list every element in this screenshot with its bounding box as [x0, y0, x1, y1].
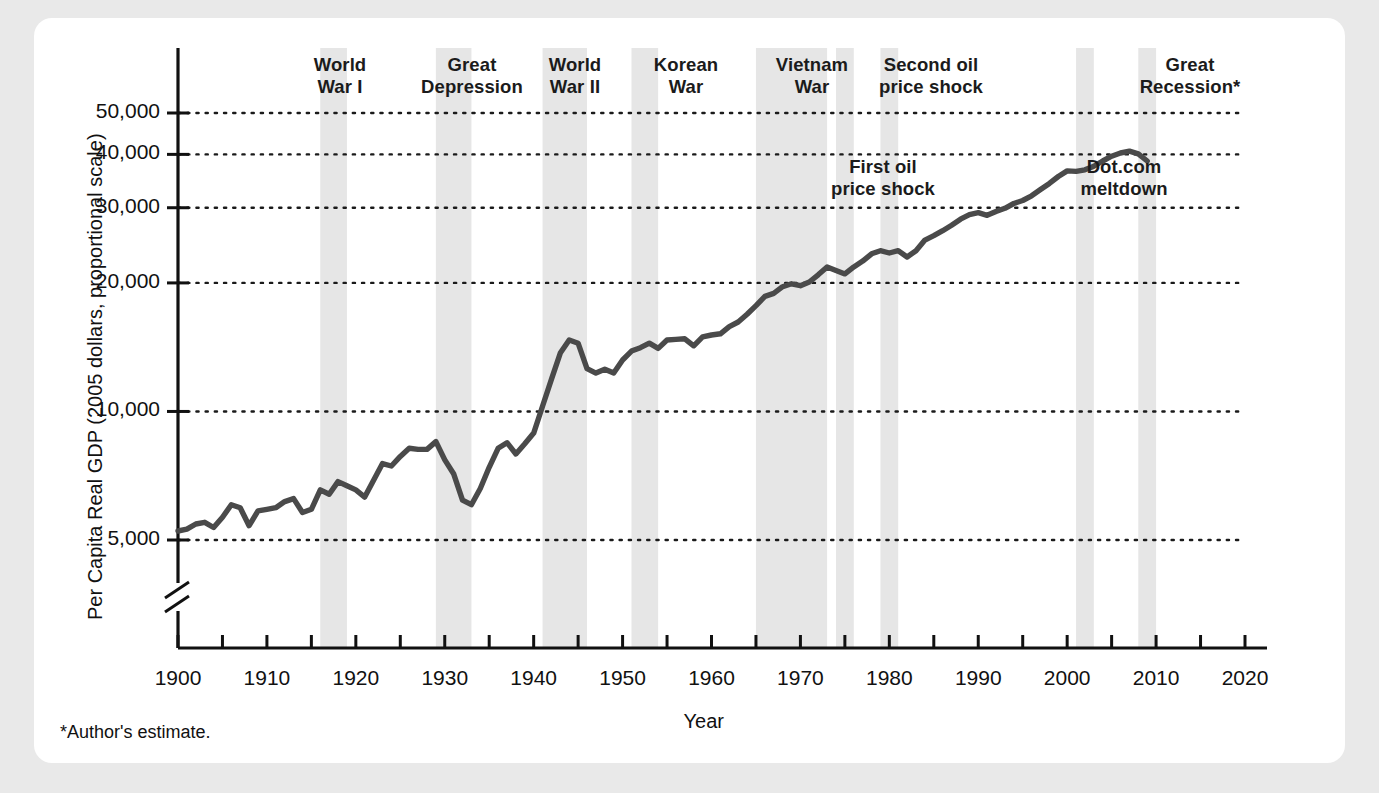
event-band — [756, 48, 827, 648]
y-tick-label: 50,000 — [96, 99, 160, 123]
event-bands-layer — [320, 48, 1156, 648]
x-tick-label: 1960 — [662, 666, 762, 690]
event-band — [436, 48, 472, 648]
x-tick-label: 1970 — [750, 666, 850, 690]
event-band — [1076, 48, 1094, 648]
figure-footnote: *Author's estimate. — [60, 722, 211, 743]
x-tick-label: 1950 — [573, 666, 673, 690]
figure-root: 5,00010,00020,00030,00040,00050,000 1900… — [0, 0, 1379, 793]
x-tick-label: 1910 — [217, 666, 317, 690]
x-axis-title: Year — [684, 710, 724, 733]
event-band — [1138, 48, 1156, 648]
x-tick-label: 1990 — [928, 666, 1028, 690]
event-band — [836, 48, 854, 648]
x-tick-label: 1940 — [484, 666, 584, 690]
annotation-second-oil-price-shock: Second oil price shock — [821, 54, 1041, 98]
y-axis-title: Per Capita Real GDP (2005 dollars, propo… — [84, 133, 107, 620]
annotation-great-recession: Great Recession* — [1080, 54, 1300, 98]
x-tick-label: 1930 — [395, 666, 495, 690]
x-tick-label: 2010 — [1106, 666, 1206, 690]
event-band — [880, 48, 898, 648]
x-tick-label: 1980 — [839, 666, 939, 690]
x-tick-label: 2020 — [1195, 666, 1295, 690]
x-tick-label: 2000 — [1017, 666, 1117, 690]
event-band — [320, 48, 347, 648]
annotation-first-oil-price-shock: First oil price shock — [773, 156, 993, 200]
x-tick-label: 1900 — [128, 666, 228, 690]
y-tick-label: 5,000 — [107, 526, 160, 550]
x-tick-label: 1920 — [306, 666, 406, 690]
annotation-dot-com-meltdown: Dot.com meltdown — [1014, 156, 1234, 200]
